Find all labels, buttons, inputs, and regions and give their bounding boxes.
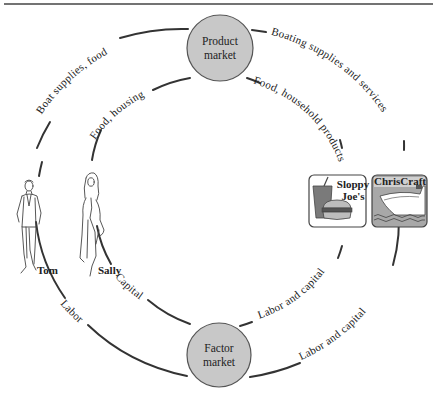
circular-flow-diagram: Boat supplies, food Boating supplies and…: [0, 0, 439, 397]
firm-label-chriscraft: ChrisCraft: [374, 175, 426, 187]
firm-label-sloppy-joes-line2: Joe's: [341, 190, 365, 202]
flow-label-inner-bottom-right: Labor and capital: [256, 265, 327, 320]
svg-text:Factor: Factor: [204, 342, 234, 354]
svg-text:market: market: [204, 49, 237, 61]
flow-label-outer-bottom-left: Labor: [58, 297, 86, 325]
flow-label-outer-bottom-right: Labor and capital: [297, 305, 368, 362]
household-label-tom: Tom: [37, 264, 58, 276]
factor-market-node: Factor market: [187, 323, 251, 387]
flow-label-inner-top-right: Food, household products: [252, 74, 348, 163]
product-market-node: Product market: [187, 15, 253, 81]
flow-label-outer-top-left: Boat supplies, food: [33, 45, 109, 116]
svg-text:market: market: [203, 356, 236, 368]
flow-label-inner-top-left: Food, housing: [87, 87, 146, 141]
woman-walking-icon: [80, 173, 104, 276]
household-label-sally: Sally: [98, 264, 122, 276]
firm-label-sloppy-joes-line1: Sloppy: [337, 178, 370, 190]
svg-text:Product: Product: [202, 35, 239, 47]
